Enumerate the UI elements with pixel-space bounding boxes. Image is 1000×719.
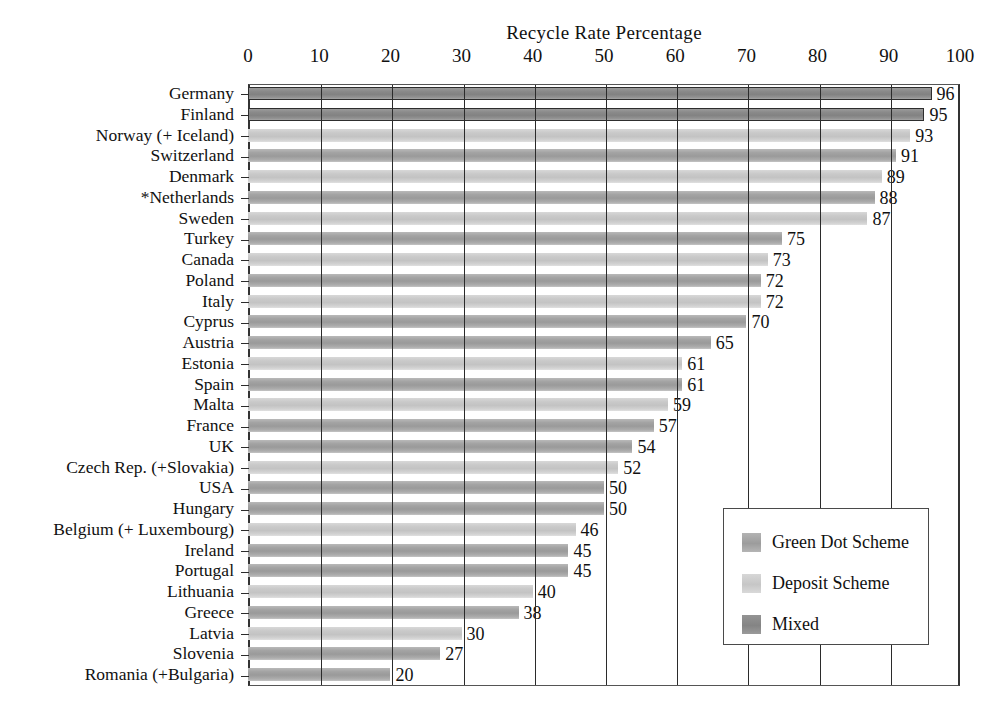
bar-row[interactable]: 52	[248, 458, 960, 479]
bar-value-label: 46	[581, 520, 599, 540]
bar-row[interactable]: 20	[248, 665, 960, 686]
y-tick-label-malta: Malta	[0, 394, 234, 415]
y-tick-label-usa: USA	[0, 477, 234, 498]
bar-belgium-luxembourg[interactable]	[248, 523, 576, 536]
x-tick-label-60: 60	[666, 45, 685, 67]
bar-row[interactable]: 95	[248, 105, 960, 126]
y-axis-tick-mark	[241, 406, 249, 407]
bar-row[interactable]: 57	[248, 416, 960, 437]
y-axis-tick-mark	[241, 572, 249, 573]
bar-row[interactable]: 96	[248, 84, 960, 105]
legend-item-green[interactable]: Green Dot Scheme	[742, 532, 909, 553]
bar-sweden[interactable]	[248, 212, 867, 225]
y-tick-label-ireland: Ireland	[0, 540, 234, 561]
bar-estonia[interactable]	[248, 357, 682, 370]
bar-row[interactable]: 87	[248, 209, 960, 230]
bar-row[interactable]: 61	[248, 354, 960, 375]
bar-row[interactable]: 89	[248, 167, 960, 188]
bar-greece[interactable]	[248, 606, 519, 619]
bar-hungary[interactable]	[248, 502, 604, 515]
y-tick-label-uk: UK	[0, 436, 234, 457]
x-tick-label-90: 90	[879, 45, 898, 67]
bar-uk[interactable]	[248, 440, 632, 453]
bar-row[interactable]: 93	[248, 126, 960, 147]
bar-row[interactable]: 70	[248, 312, 960, 333]
y-tick-label-estonia: Estonia	[0, 353, 234, 374]
bar-spain[interactable]	[248, 378, 682, 391]
bar-value-label: 30	[467, 624, 485, 644]
y-axis-tick-mark	[241, 364, 249, 365]
bar-austria[interactable]	[248, 336, 711, 349]
bar-portugal[interactable]	[248, 564, 568, 577]
bar-france[interactable]	[248, 419, 654, 432]
bar-turkey[interactable]	[248, 232, 782, 245]
bar-germany[interactable]	[248, 87, 932, 100]
bar-value-label: 27	[445, 644, 463, 664]
legend-item-deposit[interactable]: Deposit Scheme	[742, 573, 889, 594]
bar-czech-rep-slovakia[interactable]	[248, 461, 618, 474]
y-tick-label-austria: Austria	[0, 332, 234, 353]
y-tick-label-lithuania: Lithuania	[0, 581, 234, 602]
bar-row[interactable]: 27	[248, 644, 960, 665]
bar-finland[interactable]	[248, 108, 924, 121]
bar-row[interactable]: 91	[248, 146, 960, 167]
bar-row[interactable]: 54	[248, 437, 960, 458]
bar-value-label: 61	[687, 375, 705, 395]
legend-swatch-mixed-icon	[742, 615, 761, 634]
bar-row[interactable]: 88	[248, 188, 960, 209]
bar-row[interactable]: 72	[248, 271, 960, 292]
y-axis-tick-mark	[241, 94, 249, 95]
bar-norway-iceland[interactable]	[248, 129, 910, 142]
y-tick-label-denmark: Denmark	[0, 166, 234, 187]
bar-row[interactable]: 61	[248, 375, 960, 396]
bar-netherlands[interactable]	[248, 191, 875, 204]
bar-poland[interactable]	[248, 274, 761, 287]
bar-slovenia[interactable]	[248, 647, 440, 660]
chart-legend: Green Dot SchemeDeposit SchemeMixed	[723, 508, 929, 645]
bar-usa[interactable]	[248, 481, 604, 494]
y-tick-label-germany: Germany	[0, 83, 234, 104]
bar-malta[interactable]	[248, 398, 668, 411]
y-axis-tick-mark	[241, 260, 249, 261]
y-tick-label-finland: Finland	[0, 104, 234, 125]
y-tick-label-poland: Poland	[0, 270, 234, 291]
legend-swatch-green-icon	[742, 533, 761, 552]
x-tick-label-30: 30	[452, 45, 471, 67]
bar-switzerland[interactable]	[248, 149, 896, 162]
bar-cyprus[interactable]	[248, 315, 746, 328]
legend-label: Green Dot Scheme	[772, 532, 909, 553]
bar-row[interactable]: 59	[248, 395, 960, 416]
legend-item-mixed[interactable]: Mixed	[742, 614, 819, 635]
x-tick-label-0: 0	[243, 45, 253, 67]
bar-denmark[interactable]	[248, 170, 882, 183]
bar-row[interactable]: 75	[248, 229, 960, 250]
y-axis-tick-mark	[241, 593, 249, 594]
x-tick-label-40: 40	[523, 45, 542, 67]
bar-value-label: 59	[673, 395, 691, 415]
bar-lithuania[interactable]	[248, 585, 533, 598]
y-tick-label-belgium-luxembourg: Belgium (+ Luxembourg)	[0, 519, 234, 540]
y-axis-tick-mark	[241, 302, 249, 303]
y-tick-label-hungary: Hungary	[0, 498, 234, 519]
bar-row[interactable]: 50	[248, 478, 960, 499]
bar-italy[interactable]	[248, 295, 761, 308]
y-axis-tick-mark	[241, 489, 249, 490]
x-axis-tick-labels: 0102030405060708090100	[0, 45, 1000, 71]
x-tick-label-10: 10	[310, 45, 329, 67]
bar-value-label: 88	[880, 188, 898, 208]
bar-romania-bulgaria[interactable]	[248, 668, 390, 681]
bar-value-label: 73	[773, 250, 791, 270]
y-axis-tick-mark	[241, 343, 249, 344]
bar-row[interactable]: 72	[248, 292, 960, 313]
bar-latvia[interactable]	[248, 627, 462, 640]
y-axis-tick-mark	[241, 510, 249, 511]
bar-value-label: 75	[787, 229, 805, 249]
y-axis-tick-mark	[241, 676, 249, 677]
y-axis-tick-mark	[241, 323, 249, 324]
bar-canada[interactable]	[248, 253, 768, 266]
bar-row[interactable]: 73	[248, 250, 960, 271]
bar-row[interactable]: 65	[248, 333, 960, 354]
bar-value-label: 91	[901, 146, 919, 166]
bar-ireland[interactable]	[248, 544, 568, 557]
x-tick-label-20: 20	[381, 45, 400, 67]
